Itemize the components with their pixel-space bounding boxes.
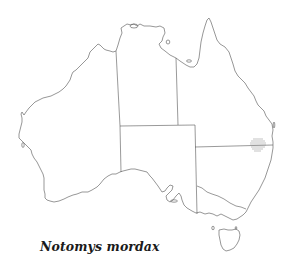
mornington-island [187,60,192,62]
king-island [212,226,214,230]
wa-nt-border [116,51,120,126]
mainland-coastline [19,18,273,220]
species-name-label: Notomys mordax [40,239,160,254]
fraser-island [273,122,275,128]
distribution-marker [250,139,266,151]
nt-qld-border [176,58,178,125]
sa-qld-nsw-vic-border [195,125,197,214]
nsw-vic-border [197,186,246,209]
nt-sa-border [120,125,195,126]
groote-eylandt [166,40,170,44]
tasmania-coastline [219,229,240,251]
wa-sa-border [120,126,121,172]
shark-bay-island [22,143,24,148]
australia-map [0,0,292,271]
